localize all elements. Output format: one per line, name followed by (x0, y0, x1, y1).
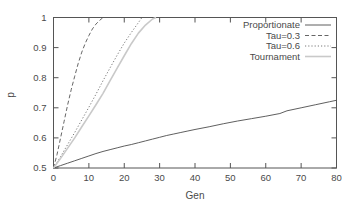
y-tick-label: 1 (41, 12, 46, 23)
x-tick-label: 0 (51, 172, 56, 183)
y-tick-label: 0.5 (33, 162, 46, 173)
x-axis-title: Gen (186, 190, 205, 201)
x-tick-label: 80 (331, 172, 342, 183)
x-tick-label: 10 (84, 172, 95, 183)
y-tick-label: 0.8 (33, 72, 46, 83)
x-tick-label: 60 (260, 172, 271, 183)
x-tick-label: 20 (119, 172, 130, 183)
line-chart: 0.50.60.70.80.91 01020304050607080 Gen p… (0, 0, 356, 204)
x-tick-label: 50 (225, 172, 236, 183)
legend-label-tau-0-6: Tau=0.6 (266, 40, 300, 51)
y-tick-label: 0.9 (33, 42, 46, 53)
legend-label-tournament: Tournament (250, 51, 301, 62)
x-tick-label: 30 (154, 172, 165, 183)
y-axis-title: p (5, 92, 16, 98)
y-tick-label: 0.6 (33, 132, 46, 143)
y-tick-label: 0.7 (33, 102, 46, 113)
legend-label-proportionate: Proportionate (243, 19, 300, 30)
chart-container: 0.50.60.70.80.91 01020304050607080 Gen p… (0, 0, 356, 204)
x-tick-label: 40 (190, 172, 201, 183)
x-tick-label: 70 (296, 172, 307, 183)
legend-label-tau-0-3: Tau=0.3 (266, 30, 300, 41)
